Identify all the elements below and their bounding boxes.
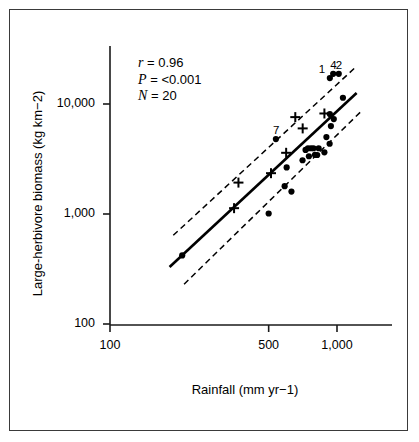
p-value: = <0.001 (150, 72, 201, 87)
data-point-circle (288, 188, 294, 194)
n-value: = 20 (151, 88, 177, 103)
x-tick-label: 1,000 (302, 338, 372, 352)
data-point-circle (282, 183, 288, 189)
data-point-label: 7 (273, 124, 279, 136)
correlation-stat: r = 0.96 (138, 55, 202, 72)
pvalue-stat: P = <0.001 (138, 72, 202, 89)
sample-size-stat: N = 20 (138, 88, 202, 105)
lower-confidence-band (184, 111, 361, 284)
data-point-label: 2 (336, 59, 342, 71)
y-tick-label: 10,000 (25, 96, 95, 110)
data-point-circle (314, 152, 320, 158)
data-point-circle (336, 71, 342, 77)
data-point-plus (319, 108, 329, 118)
data-point-circle (266, 210, 272, 216)
data-point-circle (306, 153, 312, 159)
p-symbol: P (138, 72, 147, 87)
data-point-circle (330, 71, 336, 77)
data-point-circle (179, 252, 185, 258)
y-tick-label: 100 (25, 316, 95, 330)
y-axis-title: Large-herbivore biomass (kg km−2) (30, 79, 45, 309)
r-symbol: r (138, 55, 143, 70)
regression-line (170, 93, 357, 267)
data-point-circle (273, 136, 279, 142)
data-point-circle (328, 123, 334, 129)
x-axis-title: Rainfall (mm yr−1) (110, 382, 380, 397)
data-point-circle (316, 145, 322, 151)
data-point-label: 1 (319, 63, 325, 75)
data-point-circle (331, 116, 337, 122)
data-point-circle (340, 95, 346, 101)
data-point-circle (327, 141, 333, 147)
data-point-circle (321, 149, 327, 155)
statistics-annotation: r = 0.96 P = <0.001 N = 20 (138, 55, 202, 105)
data-point-circle (323, 134, 329, 140)
regression-line-group (170, 93, 357, 267)
n-symbol: N (138, 88, 147, 103)
figure-container: r = 0.96 P = <0.001 N = 20 Large-herbivo… (0, 0, 419, 442)
data-point-circle (299, 157, 305, 163)
x-axis-ticks (110, 325, 337, 332)
data-point-circle (284, 164, 290, 170)
y-axis-ticks (103, 104, 110, 324)
data-point-plus (298, 123, 308, 133)
scatter-plot-canvas (0, 0, 419, 442)
y-tick-label: 1,000 (25, 206, 95, 220)
x-tick-label: 500 (234, 338, 304, 352)
x-tick-label: 100 (75, 338, 145, 352)
r-value: = 0.96 (147, 55, 184, 70)
